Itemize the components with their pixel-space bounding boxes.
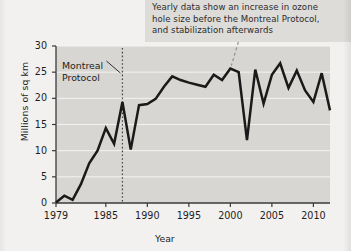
y-tick-label: 30 [25,40,47,51]
x-tick-label: 2005 [252,210,292,221]
montreal-protocol-label: Montreal Protocol [62,60,103,85]
montreal-protocol-label-line-2: Protocol [62,72,103,84]
x-tick-label: 1985 [86,210,126,221]
x-tick-label: 2010 [293,210,333,221]
y-tick-label: 10 [25,145,47,156]
x-tick-label: 2000 [210,210,250,221]
x-tick-label: 1990 [127,210,167,221]
y-tick-label: 20 [25,92,47,103]
y-tick-label: 0 [25,197,47,208]
y-tick-label: 5 [25,171,47,182]
x-tick-label: 1979 [36,210,76,221]
x-axis-label: Year [155,233,175,244]
x-tick-label: 1995 [169,210,209,221]
y-tick-label: 15 [25,119,47,130]
chart-figure: Yearly data show an increase in ozone ho… [0,0,351,251]
y-tick-label: 25 [25,66,47,77]
montreal-protocol-label-line-1: Montreal [62,60,103,72]
